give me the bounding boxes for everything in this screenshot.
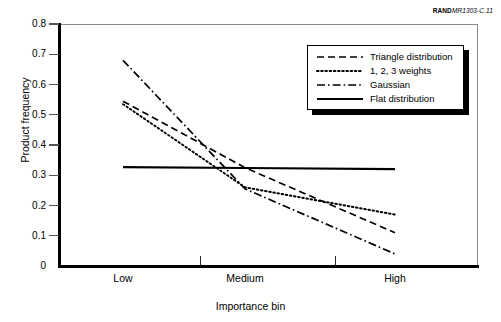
figure-container: RANDMR1303-C.11 00.10.20.30.40.50.60.70.… [0,0,501,322]
legend-label: Triangle distribution [364,52,453,62]
legend-swatch-icon [316,94,364,104]
legend-label: 1, 2, 3 weights [364,66,431,76]
series-line-1-2-3-weights [123,104,395,214]
legend-label: Flat distribution [364,94,434,104]
legend-swatch-icon [316,66,364,76]
legend-item[interactable]: Gaussian [308,78,463,92]
legend-item[interactable]: Flat distribution [308,92,463,106]
legend-item[interactable]: Triangle distribution [308,50,463,64]
legend-label: Gaussian [364,80,410,90]
series-line-flat-distribution [123,167,395,169]
legend-swatch-icon [316,52,364,62]
legend-swatch-icon [316,80,364,90]
chart-legend: Triangle distribution1, 2, 3 weightsGaus… [307,45,464,110]
legend-item[interactable]: 1, 2, 3 weights [308,64,463,78]
